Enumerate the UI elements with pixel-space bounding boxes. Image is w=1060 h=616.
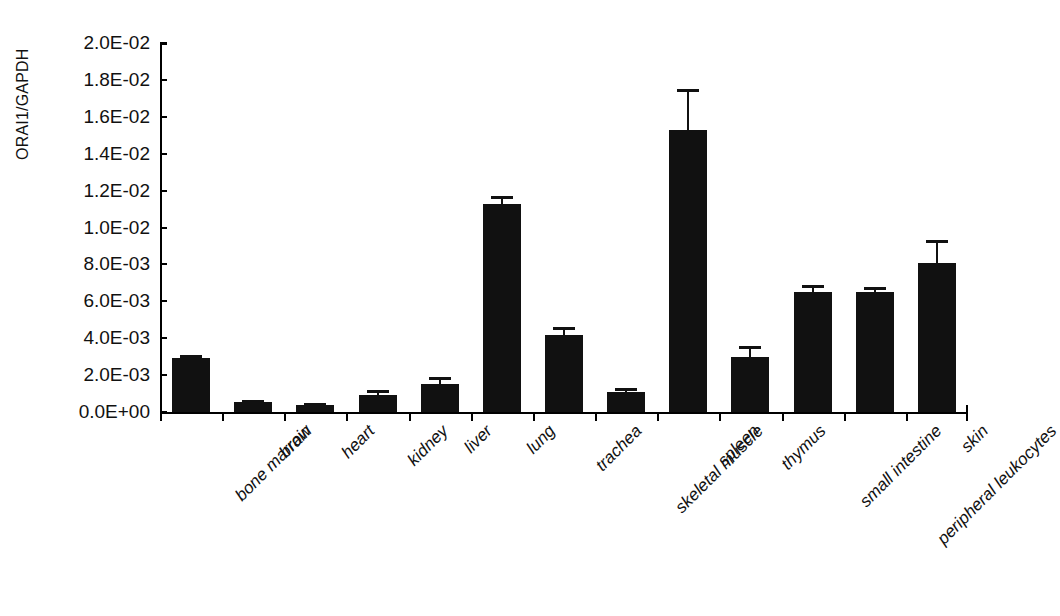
x-axis-category-label: trachea xyxy=(593,422,645,474)
x-axis-category-label: thymus xyxy=(779,422,830,473)
x-axis-tick xyxy=(595,412,597,421)
x-axis-category-label: lung xyxy=(523,422,558,457)
y-axis-tick-label: 8.0E-03 xyxy=(0,254,150,273)
x-axis-category-label: small intestine xyxy=(856,422,944,510)
x-axis-tick xyxy=(284,412,286,421)
error-bar-cap xyxy=(367,390,389,393)
error-bar-cap xyxy=(615,388,637,391)
error-bar-cap xyxy=(553,327,575,330)
y-axis-tick-label: 2.0E-03 xyxy=(0,365,150,384)
error-bar-cap xyxy=(491,196,513,199)
error-bar-cap xyxy=(304,403,326,406)
y-axis-tick xyxy=(160,116,167,118)
y-axis-tick-label: 0.0E+00 xyxy=(0,402,150,421)
x-axis-tick xyxy=(782,412,784,421)
error-bar-cap xyxy=(864,287,886,290)
y-axis-tick xyxy=(160,227,167,229)
error-bar-cap xyxy=(926,240,948,243)
y-axis-tick-label: 6.0E-03 xyxy=(0,291,150,310)
y-axis-tick xyxy=(160,190,167,192)
x-axis-category-label: kidney xyxy=(404,422,451,469)
y-axis-tick-label: 4.0E-03 xyxy=(0,328,150,347)
bar xyxy=(669,130,707,412)
error-bar-cap xyxy=(677,89,699,92)
x-axis-category-label: heart xyxy=(339,422,378,461)
bar xyxy=(421,384,459,412)
x-axis-tick xyxy=(533,412,535,421)
error-bar-stem xyxy=(936,240,938,262)
y-axis-title: ORAI1/GAPDH xyxy=(14,0,32,160)
x-axis-category-label: brain xyxy=(276,422,315,461)
x-axis-tick xyxy=(222,412,224,421)
bar xyxy=(234,402,272,412)
y-axis-tick xyxy=(160,79,167,81)
x-axis-category-label: peripheral leukocytes xyxy=(934,422,1060,548)
error-bar-cap xyxy=(242,400,264,403)
x-axis-tick xyxy=(657,412,659,421)
bar xyxy=(918,263,956,412)
bar xyxy=(794,292,832,412)
x-axis-line xyxy=(160,412,968,414)
x-axis-tick xyxy=(346,412,348,421)
y-axis-tick xyxy=(160,300,167,302)
x-axis-tick xyxy=(966,412,968,421)
x-axis-tick xyxy=(160,412,162,421)
bar xyxy=(545,335,583,412)
y-axis-tick xyxy=(160,263,167,265)
plot-area xyxy=(160,43,968,412)
error-bar-cap xyxy=(180,355,202,358)
bar xyxy=(172,358,210,412)
error-bar-stem xyxy=(687,89,689,130)
y-axis-tick xyxy=(160,337,167,339)
x-axis-tick xyxy=(409,412,411,421)
error-bar-cap xyxy=(429,377,451,380)
error-bar-cap xyxy=(802,285,824,288)
y-axis-tick-label: 1.0E-02 xyxy=(0,218,150,237)
y-axis-tick xyxy=(160,153,167,155)
y-axis-tick-label: 1.2E-02 xyxy=(0,181,150,200)
bar xyxy=(856,292,894,412)
x-axis-category-label: skin xyxy=(958,422,991,455)
x-axis-tick xyxy=(906,412,908,421)
bar xyxy=(607,392,645,412)
x-axis-category-label: liver xyxy=(461,422,495,456)
y-axis-tick xyxy=(160,374,167,376)
error-bar-cap xyxy=(739,346,761,349)
x-axis-tick xyxy=(844,412,846,421)
y-axis-tick xyxy=(160,42,167,44)
bar xyxy=(483,204,521,412)
bar xyxy=(359,395,397,412)
x-axis-tick xyxy=(719,412,721,421)
bar xyxy=(731,357,769,412)
x-axis-tick xyxy=(471,412,473,421)
